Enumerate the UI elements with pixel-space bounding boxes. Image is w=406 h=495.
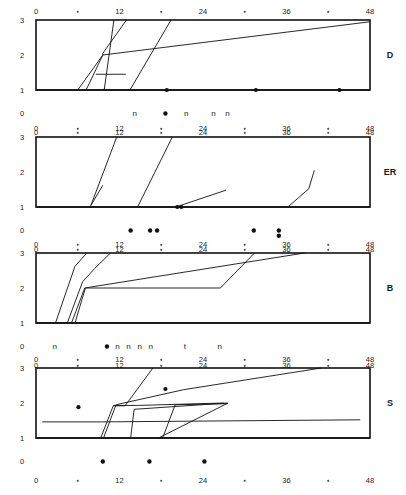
x-minor-tick-dot xyxy=(160,480,162,482)
x-tick-label: 36 xyxy=(282,7,290,16)
x-minor-tick-dot xyxy=(327,132,329,134)
panel-s: 0122436480123012243648S xyxy=(20,355,393,485)
x-minor-tick-dot xyxy=(160,249,162,251)
x-minor-tick-dot xyxy=(77,244,79,246)
x-tick-label: 12 xyxy=(115,476,123,485)
trace-d-trace-1 xyxy=(78,22,370,90)
annotation-marker: t xyxy=(184,342,187,351)
x-minor-tick-dot xyxy=(160,132,162,134)
x-tick-label: 36 xyxy=(282,476,290,485)
x-minor-tick-dot xyxy=(327,480,329,482)
trace-s-trace-1 xyxy=(101,368,153,438)
annotation-dot xyxy=(101,459,105,463)
x-tick-label: 24 xyxy=(199,7,207,16)
x-minor-tick-dot xyxy=(77,11,79,13)
x-minor-tick-dot xyxy=(160,11,162,13)
y-tick-label: 2 xyxy=(20,284,24,293)
x-tick-label: 48 xyxy=(366,240,374,249)
panel-label-d: D xyxy=(387,50,394,60)
x-tick-label: 36 xyxy=(282,240,290,249)
panel-frame xyxy=(36,20,370,90)
x-minor-tick-dot xyxy=(77,132,79,134)
annotation-marker: n xyxy=(133,109,137,118)
x-minor-tick-dot xyxy=(244,359,246,361)
x-minor-tick-dot xyxy=(160,244,162,246)
x-minor-tick-dot xyxy=(244,128,246,130)
x-minor-tick-dot xyxy=(327,249,329,251)
x-tick-label: 48 xyxy=(366,355,374,364)
baseline-event-dot xyxy=(175,205,179,209)
y-tick-label: 1 xyxy=(20,203,24,212)
x-tick-label: 24 xyxy=(199,476,207,485)
panel-d: 0122436480123nnnn012243648D xyxy=(20,7,394,137)
x-tick-label: 48 xyxy=(366,124,374,133)
annotation-dot xyxy=(163,111,167,115)
y-tick-label: 1 xyxy=(20,319,24,328)
annotation-marker: n xyxy=(217,342,221,351)
annotation-dot xyxy=(202,459,206,463)
chart-render-root: 0122436480123nnnn012243648D0122436480123… xyxy=(20,7,397,485)
y-tick-label: 0 xyxy=(20,109,24,118)
panel-label-b: B xyxy=(387,283,394,293)
x-minor-tick-dot xyxy=(244,132,246,134)
y-tick-label: 2 xyxy=(20,51,24,60)
x-tick-label: 0 xyxy=(34,7,38,16)
inline-event-dot xyxy=(163,387,167,391)
trace-er-trace-1 xyxy=(90,137,116,207)
trace-b-trace-4 xyxy=(75,253,255,323)
annotation-dot xyxy=(277,234,281,238)
annotation-dot xyxy=(252,228,256,232)
annotation-dot xyxy=(155,228,159,232)
x-minor-tick-dot xyxy=(77,128,79,130)
x-tick-label: 12 xyxy=(115,355,123,364)
trace-s-trace-3 xyxy=(131,403,228,438)
x-tick-label: 24 xyxy=(199,124,207,133)
trace-er-trace-4 xyxy=(178,190,226,206)
x-minor-tick-dot xyxy=(160,365,162,367)
x-minor-tick-dot xyxy=(77,359,79,361)
trace-er-trace-5 xyxy=(288,170,314,207)
x-tick-label: 0 xyxy=(34,355,38,364)
y-tick-label: 0 xyxy=(20,342,24,351)
trace-er-trace-3 xyxy=(138,137,173,207)
annotation-dot xyxy=(147,459,151,463)
y-tick-label: 0 xyxy=(20,226,24,235)
x-tick-label: 0 xyxy=(34,240,38,249)
annotation-marker: n xyxy=(149,342,153,351)
x-minor-tick-dot xyxy=(77,249,79,251)
x-minor-tick-dot xyxy=(244,480,246,482)
x-minor-tick-dot xyxy=(160,128,162,130)
annotation-marker: n xyxy=(115,342,119,351)
annotation-dot xyxy=(128,228,132,232)
x-tick-label: 24 xyxy=(199,240,207,249)
baseline-event-dot xyxy=(337,88,341,92)
x-tick-label: 0 xyxy=(34,476,38,485)
annotation-marker: n xyxy=(211,109,215,118)
x-minor-tick-dot xyxy=(327,244,329,246)
y-tick-label: 3 xyxy=(20,364,24,373)
annotation-dot xyxy=(148,228,152,232)
y-tick-label: 0 xyxy=(20,457,24,466)
multi-panel-line-chart: 0122436480123nnnn012243648D0122436480123… xyxy=(0,0,406,495)
x-minor-tick-dot xyxy=(77,365,79,367)
x-tick-label: 12 xyxy=(115,240,123,249)
x-tick-label: 36 xyxy=(282,355,290,364)
x-tick-label: 12 xyxy=(115,7,123,16)
panel-label-er: ER xyxy=(384,167,397,177)
y-tick-label: 1 xyxy=(20,434,24,443)
y-tick-label: 3 xyxy=(20,16,24,25)
annotation-marker: n xyxy=(184,109,188,118)
annotation-dot xyxy=(277,228,281,232)
x-minor-tick-dot xyxy=(327,11,329,13)
x-tick-label: 48 xyxy=(366,7,374,16)
panel-frame xyxy=(36,368,370,438)
annotation-marker: n xyxy=(53,342,57,351)
annotation-dot xyxy=(105,344,109,348)
x-minor-tick-dot xyxy=(244,365,246,367)
x-tick-label: 48 xyxy=(366,476,374,485)
x-minor-tick-dot xyxy=(77,480,79,482)
x-minor-tick-dot xyxy=(244,244,246,246)
panel-frame xyxy=(36,137,370,207)
panel-er: 0122436480123012243648ER xyxy=(20,124,397,254)
x-minor-tick-dot xyxy=(327,359,329,361)
